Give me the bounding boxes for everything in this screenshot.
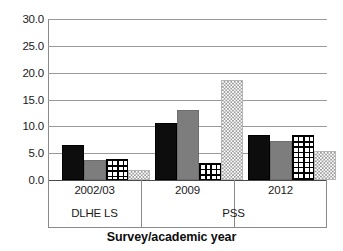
y-tick-label: 0.0: [0, 174, 44, 186]
y-tick-label: 30.0: [0, 13, 44, 25]
bar-series-3: [106, 159, 128, 180]
bars-layer: [48, 19, 327, 180]
bar-group-2009: [141, 19, 234, 180]
category-axis: 2002/03 2009 2012 DLHE LS PSS: [48, 180, 327, 228]
y-tick-label: 20.0: [0, 67, 44, 79]
group-label-dlhe-ls: DLHE LS: [48, 207, 141, 219]
bar-group-2002-03: [48, 19, 141, 180]
bar-series-2: [177, 110, 199, 180]
bar-series-1: [155, 123, 177, 180]
bar-group-2012: [234, 19, 327, 180]
category-label-2012: 2012: [234, 184, 327, 196]
y-tick-label: 25.0: [0, 40, 44, 52]
group-label-pss: PSS: [141, 207, 326, 219]
y-tick-label: 10.0: [0, 120, 44, 132]
bar-series-3: [199, 163, 221, 180]
bar-series-1: [62, 145, 84, 180]
bar-series-2: [84, 160, 106, 180]
bar-series-3: [292, 135, 314, 180]
y-tick-label: 15.0: [0, 94, 44, 106]
x-axis-title: Survey/academic year: [0, 230, 343, 244]
category-label-2009: 2009: [141, 184, 234, 196]
y-axis-tick-labels: 30.0 25.0 20.0 15.0 10.0 5.0 0.0: [0, 0, 46, 251]
bar-series-2: [270, 141, 292, 180]
bar-series-1: [248, 135, 270, 180]
y-tick-label: 5.0: [0, 147, 44, 159]
bar-series-4: [314, 151, 336, 180]
bar-chart: 30.0 25.0 20.0 15.0 10.0 5.0 0.0: [0, 0, 343, 251]
category-axis-bottom-line: [48, 227, 327, 228]
category-label-2002-03: 2002/03: [48, 184, 141, 196]
